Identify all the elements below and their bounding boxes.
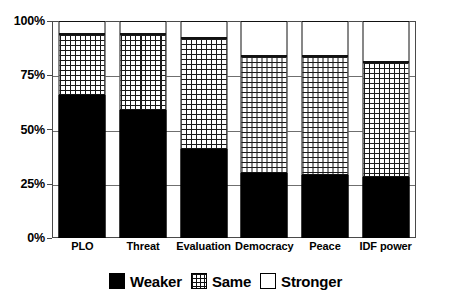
legend-label-stronger: Stronger xyxy=(281,273,342,290)
y-axis-tick-0 xyxy=(47,238,52,239)
bar-slot-peace xyxy=(295,21,356,238)
legend-label-weaker: Weaker xyxy=(130,273,182,290)
x-axis-label-peace: Peace xyxy=(309,240,340,252)
bar-slot-idf-power xyxy=(355,21,416,238)
bar-slot-threat xyxy=(113,21,174,238)
chart-root: 100% 75% 50% 25% 0% xyxy=(0,0,451,308)
bar-segment-weaker-plo[interactable] xyxy=(59,95,106,238)
bar-segment-stronger-plo[interactable] xyxy=(59,21,106,34)
bar-segment-stronger-peace[interactable] xyxy=(301,21,348,56)
x-axis-label-evaluation: Evaluation xyxy=(176,240,231,252)
plot-wrapper: 100% 75% 50% 25% 0% xyxy=(0,0,451,255)
bar-segment-same-evaluation[interactable] xyxy=(180,38,227,149)
solid-black-swatch-icon xyxy=(109,273,125,289)
bar-segment-weaker-threat[interactable] xyxy=(119,110,166,238)
legend-item-same[interactable]: Same xyxy=(191,273,251,290)
bar-segment-same-peace[interactable] xyxy=(301,56,348,175)
y-axis-tick-label-50: 50% xyxy=(21,123,45,137)
legend-item-stronger[interactable]: Stronger xyxy=(260,273,342,290)
x-axis-label-idf-power: IDF power xyxy=(360,240,412,252)
bar-slot-plo xyxy=(52,21,113,238)
y-axis-tick-label-0: 0% xyxy=(27,231,45,245)
bar-segment-same-idf-power[interactable] xyxy=(362,62,409,177)
bar-group xyxy=(52,21,416,238)
legend-label-same: Same xyxy=(212,273,251,290)
y-axis: 100% 75% 50% 25% 0% xyxy=(0,0,50,255)
bar-segment-weaker-evaluation[interactable] xyxy=(180,149,227,238)
bar-slot-democracy xyxy=(234,21,295,238)
x-axis-label-plo: PLO xyxy=(71,240,93,252)
legend-item-weaker[interactable]: Weaker xyxy=(109,273,182,290)
empty-white-swatch-icon xyxy=(260,273,276,289)
y-axis-tick-label-100: 100% xyxy=(14,14,45,28)
bar-segment-same-democracy[interactable] xyxy=(241,56,288,173)
bar-segment-weaker-idf-power[interactable] xyxy=(362,177,409,238)
bar-segment-same-plo[interactable] xyxy=(59,34,106,95)
x-axis-label-democracy: Democracy xyxy=(235,240,293,252)
bar-slot-evaluation xyxy=(173,21,234,238)
x-axis-label-threat: Threat xyxy=(126,240,159,252)
bar-segment-stronger-evaluation[interactable] xyxy=(180,21,227,38)
x-axis: PLO Threat Evaluation Democracy Peace ID… xyxy=(52,240,416,260)
bar-segment-stronger-threat[interactable] xyxy=(119,21,166,34)
y-axis-tick-label-75: 75% xyxy=(21,68,45,82)
chart-legend: Weaker Same Stronger xyxy=(0,268,451,294)
bar-segment-weaker-peace[interactable] xyxy=(301,175,348,238)
y-axis-tick-label-25: 25% xyxy=(21,177,45,191)
bar-segment-stronger-idf-power[interactable] xyxy=(362,21,409,62)
bar-segment-stronger-democracy[interactable] xyxy=(241,21,288,56)
grid-hatch-swatch-icon xyxy=(191,273,207,289)
bar-segment-same-threat[interactable] xyxy=(119,34,166,110)
bar-segment-weaker-democracy[interactable] xyxy=(241,173,288,238)
